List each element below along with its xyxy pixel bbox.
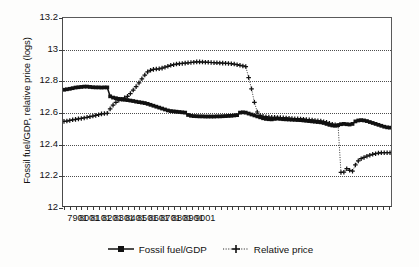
series-marker — [370, 152, 375, 157]
y-axis-tick-label: 13.2 — [0, 11, 58, 22]
y-axis-tick-label: 12 — [0, 201, 58, 212]
x-axis-tick-mark — [128, 206, 129, 210]
x-axis-tick-mark — [110, 206, 111, 210]
series-marker — [166, 64, 171, 69]
series-marker — [137, 81, 142, 86]
x-axis-tick-mark — [76, 206, 77, 210]
y-axis-tick-label: 12.6 — [0, 106, 58, 117]
x-axis-tick-mark — [116, 206, 117, 210]
x-axis-tick-mark — [296, 206, 297, 210]
x-axis-tick-mark — [203, 206, 204, 210]
x-axis-tick-mark — [198, 206, 199, 210]
series-marker — [246, 75, 251, 80]
series-marker — [388, 150, 391, 155]
series-marker — [88, 114, 93, 119]
series-marker — [157, 66, 162, 71]
series-marker — [67, 118, 72, 123]
plot-area — [62, 17, 392, 207]
series-marker — [160, 66, 165, 71]
legend-plus-marker-icon — [221, 243, 251, 255]
x-axis-tick-mark — [267, 206, 268, 210]
x-axis-tick-mark — [273, 206, 274, 210]
legend-label: Fossil fuel/GDP — [139, 244, 207, 255]
series-marker — [111, 103, 116, 108]
x-axis-tick-mark — [377, 206, 378, 210]
x-axis-tick-mark — [180, 206, 181, 210]
series-marker — [235, 62, 240, 67]
x-axis-tick-mark — [308, 206, 309, 210]
x-axis-tick-mark — [215, 206, 216, 210]
series-marker — [105, 111, 110, 116]
x-axis-tick-mark — [331, 206, 332, 210]
x-axis-tick-mark — [64, 206, 65, 210]
series-marker — [82, 116, 87, 121]
series-marker — [65, 119, 70, 124]
x-axis-tick-mark — [70, 206, 71, 210]
x-axis-tick-mark — [157, 206, 158, 210]
series-marker — [388, 126, 391, 130]
x-axis-tick-mark — [87, 206, 88, 210]
x-axis-tick-mark — [192, 206, 193, 210]
series-marker — [373, 151, 378, 156]
x-axis-tick-mark — [174, 206, 175, 210]
y-axis-tick-label: 12.8 — [0, 74, 58, 85]
x-axis-tick-mark — [232, 206, 233, 210]
x-axis-tick-mark — [145, 206, 146, 210]
x-axis-tick-mark — [314, 206, 315, 210]
x-axis-tick-mark — [151, 206, 152, 210]
x-axis-tick-mark — [279, 206, 280, 210]
x-axis-tick-mark — [139, 206, 140, 210]
x-axis-tick-mark — [238, 206, 239, 210]
x-axis-tick-mark — [366, 206, 367, 210]
x-axis-tick-mark — [122, 206, 123, 210]
x-axis-tick-mark — [389, 206, 390, 210]
legend-square-marker-icon — [106, 243, 136, 255]
series-marker — [140, 77, 145, 82]
series-marker — [353, 163, 358, 168]
x-axis-tick-mark — [325, 206, 326, 210]
x-axis-tick-mark — [93, 206, 94, 210]
y-axis-tick-label: 12.4 — [0, 138, 58, 149]
series-marker — [350, 169, 355, 174]
series-marker — [142, 73, 147, 78]
x-axis-tick-mark — [81, 206, 82, 210]
x-axis-tick-mark — [360, 206, 361, 210]
x-axis-tick-mark — [186, 206, 187, 210]
series-marker — [163, 65, 168, 70]
y-axis-tick-label: 12.2 — [0, 169, 58, 180]
x-axis-tick-mark — [302, 206, 303, 210]
series-marker — [108, 107, 113, 112]
x-axis-tick-mark — [319, 206, 320, 210]
series-marker — [252, 100, 257, 105]
x-axis-tick-mark — [372, 206, 373, 210]
x-axis-tick-mark — [343, 206, 344, 210]
x-axis-tick-mark — [261, 206, 262, 210]
series-marker — [96, 112, 101, 117]
y-axis-tick-mark — [59, 208, 63, 209]
x-axis-tick-mark — [105, 206, 106, 210]
x-axis-tick-mark — [290, 206, 291, 210]
series-marker — [249, 87, 254, 92]
x-axis-tick-label: 9001 — [195, 213, 215, 223]
x-axis-tick-mark — [168, 206, 169, 210]
x-axis-tick-mark — [256, 206, 257, 210]
series-marker — [171, 62, 176, 67]
y-axis-tick-label: 13 — [0, 43, 58, 54]
legend-item: Relative price — [221, 243, 313, 255]
legend-item: Fossil fuel/GDP — [106, 243, 207, 255]
chart-legend: Fossil fuel/GDPRelative price — [0, 243, 419, 255]
series-fossil-fuel-gdp — [63, 85, 391, 130]
series-marker — [85, 115, 90, 120]
x-axis-tick-mark — [221, 206, 222, 210]
x-axis-tick-mark — [209, 206, 210, 210]
series-marker — [168, 63, 173, 68]
series-marker — [368, 153, 373, 158]
x-axis-tick-mark — [285, 206, 286, 210]
series-marker — [93, 113, 98, 118]
x-axis-tick-mark — [99, 206, 100, 210]
series-marker — [105, 86, 109, 90]
x-axis-tick-mark — [337, 206, 338, 210]
x-axis-tick-mark — [354, 206, 355, 210]
series-marker — [243, 64, 248, 69]
x-axis-tick-mark — [134, 206, 135, 210]
